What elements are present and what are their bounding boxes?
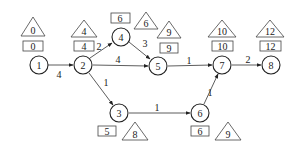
edge-label-4-5: 3 [143,38,148,49]
edge-label-2-4: 2 [97,41,102,52]
edge-2-5 [93,65,148,66]
earliest-time-value: 4 [82,41,87,52]
edge-label-2-5: 4 [116,54,121,65]
node-6: 6 6 9 [191,104,241,140]
node-7: 10 10 7 [208,20,236,74]
earliest-time-value: 10 [218,41,228,52]
node-label: 2 [81,60,86,71]
edge-label-2-3: 1 [104,77,109,88]
node-4: 6 6 4 [111,12,158,46]
node-1: 0 0 1 [21,17,48,74]
latest-time-value: 8 [133,129,138,140]
node-2: 4 4 2 [71,20,97,74]
node-label: 5 [156,61,161,72]
latest-time-value: 4 [82,26,87,37]
latest-time-value: 0 [31,25,36,36]
earliest-time-value: 6 [198,126,203,137]
edge-label-3-6: 1 [155,102,160,113]
latest-time-value: 9 [226,129,231,140]
node-label: 3 [117,108,122,119]
latest-time-value: 6 [144,18,149,29]
node-label: 6 [198,108,203,119]
latest-time-value: 10 [217,26,227,37]
node-label: 8 [269,60,274,71]
latest-time-value: 12 [265,26,275,37]
edge-label-1-2: 4 [57,69,62,80]
edge-label-6-7: 1 [208,87,213,98]
earliest-time-value: 0 [31,41,36,52]
node-8: 12 12 8 [256,20,284,74]
earliest-time-value: 5 [105,126,110,137]
edge-label-5-7: 1 [187,55,192,66]
earliest-time-value: 6 [118,13,123,24]
earliest-time-value: 12 [266,41,276,52]
earliest-time-value: 9 [167,43,172,54]
node-label: 4 [119,32,124,43]
node-label: 7 [220,60,225,71]
network-diagram: 4 2 4 1 3 1 1 1 2 0 0 1 4 4 2 6 6 4 9 [0,0,299,151]
edge-2-3 [89,73,113,105]
node-3: 3 5 8 [98,104,148,140]
node-label: 1 [37,60,42,71]
latest-time-value: 9 [167,27,172,38]
edge-label-7-8: 2 [246,54,251,65]
